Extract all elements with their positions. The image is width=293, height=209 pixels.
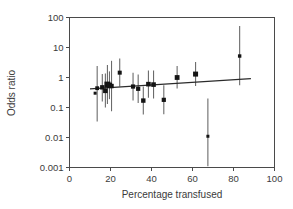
chart-canvas: 0.0010.010.1110100 020406080100 Percenta…: [0, 0, 293, 209]
data-point-marker: [94, 92, 97, 95]
plot-frame: [70, 18, 275, 168]
data-point-marker: [193, 72, 198, 77]
x-tick-label: 20: [105, 173, 116, 184]
y-tick-label: 10: [53, 42, 64, 53]
error-bars: [97, 26, 239, 166]
regression-fit-line: [90, 79, 251, 89]
x-tick-label: 80: [228, 173, 239, 184]
y-tick-label: 0.01: [45, 132, 64, 143]
y-tick-label: 0.1: [50, 102, 63, 113]
x-tick-label: 100: [267, 173, 283, 184]
data-point-marker: [175, 75, 180, 80]
y-tick-label: 1: [58, 72, 63, 83]
x-axis: 020406080100: [67, 168, 283, 184]
data-point-marker: [131, 84, 135, 88]
data-point-marker: [118, 71, 122, 75]
x-tick-label: 60: [187, 173, 198, 184]
y-tick-label: 100: [48, 12, 64, 23]
data-point-marker: [141, 98, 145, 102]
y-axis: 0.0010.010.1110100: [40, 12, 70, 173]
odds-ratio-scatter-figure: 0.0010.010.1110100 020406080100 Percenta…: [0, 0, 293, 209]
x-axis-title: Percentage transfused: [122, 189, 223, 200]
data-point-marker: [162, 98, 166, 102]
data-point-marker: [238, 54, 241, 57]
x-tick-label: 40: [146, 173, 157, 184]
data-point-marker: [206, 135, 209, 138]
data-point-marker: [146, 82, 151, 87]
data-point-marker: [95, 86, 99, 90]
data-point-marker: [109, 84, 113, 88]
data-markers: [94, 54, 242, 137]
fit-line-segment: [90, 79, 251, 89]
data-point-marker: [103, 89, 108, 94]
x-tick-label: 0: [67, 173, 72, 184]
y-tick-label: 0.001: [40, 162, 64, 173]
data-point-marker: [151, 82, 156, 87]
y-axis-title: Odds ratio: [6, 69, 17, 116]
data-point-marker: [136, 87, 140, 91]
